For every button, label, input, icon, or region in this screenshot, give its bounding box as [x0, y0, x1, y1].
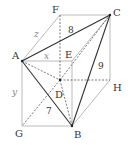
- edge-AF: [22, 15, 60, 61]
- label-H: H: [113, 82, 122, 93]
- label-D: D: [55, 89, 63, 100]
- label-y: y: [11, 87, 18, 97]
- label-z: z: [33, 29, 39, 39]
- vertex-D-dot: [59, 79, 61, 81]
- edge-AD: [22, 61, 60, 80]
- vertex-C-dot: [109, 14, 111, 16]
- label-A: A: [11, 50, 20, 61]
- label-x: x: [44, 51, 49, 61]
- label-B: B: [74, 129, 81, 140]
- edge-AB: [22, 61, 72, 126]
- label-E: E: [65, 49, 72, 60]
- label-F: F: [52, 4, 59, 15]
- label-C: C: [113, 7, 121, 18]
- label-G: G: [15, 128, 23, 139]
- edge-EC: [72, 15, 110, 61]
- label-BC-length: 9: [98, 61, 104, 71]
- vertex-A-dot: [21, 60, 23, 62]
- label-AB-length: 7: [46, 106, 52, 116]
- tetrahedron-box-diagram: F C A E D H G B 8 9 7 x y z: [0, 0, 130, 145]
- label-AC-length: 8: [68, 25, 74, 35]
- edge-HB: [72, 80, 110, 126]
- vertex-B-dot: [71, 125, 73, 127]
